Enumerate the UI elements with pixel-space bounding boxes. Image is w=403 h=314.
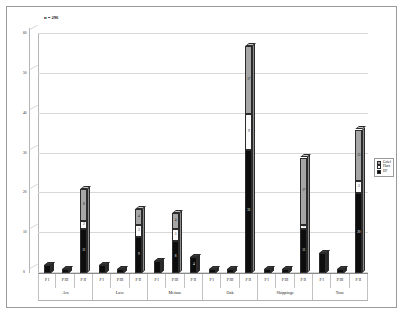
bar-segment-ef xyxy=(99,265,106,273)
bar-value-label: 1 xyxy=(301,226,306,229)
category-tick-label: P III xyxy=(111,274,129,288)
bar-side-face xyxy=(362,127,365,273)
bar-value-label: 17 xyxy=(246,78,251,81)
category-tick-label: P I xyxy=(203,274,221,288)
sample-size-annotation: n = 296 xyxy=(44,16,58,21)
bar-value-label: 3 xyxy=(136,229,141,232)
bar-side-face xyxy=(142,207,145,273)
y-axis-tick-label: 60 xyxy=(23,32,31,36)
category-tick-label: P III xyxy=(331,274,349,288)
category-tick-label: P I xyxy=(38,274,56,288)
bar-value-label: 9 xyxy=(136,253,141,256)
bar-value-label: 31 xyxy=(246,210,251,213)
bar-column: 934 xyxy=(135,209,142,273)
bar-side-face xyxy=(87,187,90,273)
group-axis-underline xyxy=(38,300,368,301)
bar-side-face xyxy=(69,266,72,273)
bar-value-label: 4 xyxy=(173,220,178,223)
bar-segment-ef xyxy=(154,261,161,273)
bar-side-face xyxy=(289,266,292,273)
group-axis-label: Oak xyxy=(203,287,258,300)
bar-segment-ef: 8 xyxy=(172,241,179,273)
chart-legend: GriefHurtEF xyxy=(374,158,394,177)
y-axis-tick-label: 0 xyxy=(23,271,29,275)
category-tick-label: P III xyxy=(166,274,184,288)
bar-value-label: 4 xyxy=(191,263,196,266)
bar-value-label: 13 xyxy=(356,154,361,157)
chart-container: n = 296 0102030405060 112893483443191711… xyxy=(0,0,403,314)
bar-column xyxy=(319,253,326,273)
bar-value-label: 3 xyxy=(356,186,361,189)
plot-area: 0102030405060 11289348344319171111720313 xyxy=(38,34,368,273)
bar-column: 20313 xyxy=(355,130,362,273)
bar-column: 1128 xyxy=(80,189,87,273)
legend-label: EF xyxy=(383,170,387,174)
group-axis-label: Ars xyxy=(38,287,93,300)
bar-column xyxy=(154,261,161,273)
category-tick-label: P II xyxy=(75,274,93,288)
bar-side-face xyxy=(216,266,219,273)
category-tick-label: P I xyxy=(313,274,331,288)
bar-side-face xyxy=(161,258,164,273)
bar-side-face xyxy=(179,211,182,273)
bar-column: 4 xyxy=(190,257,197,273)
bar-side-face xyxy=(234,266,237,273)
bar-side-face xyxy=(271,266,274,273)
legend-swatch-ef xyxy=(377,170,381,174)
bar-segment-ef xyxy=(44,265,51,273)
bar-value-label: 2 xyxy=(81,224,86,227)
bar-column: 11117 xyxy=(300,157,307,273)
y-axis-tick-label: 20 xyxy=(23,192,31,196)
legend-swatch-hurt xyxy=(377,165,381,169)
category-tick-label: P III xyxy=(56,274,74,288)
group-axis-label: Tone xyxy=(313,287,368,300)
category-tick-label: P I xyxy=(258,274,276,288)
category-tick-label: P II xyxy=(130,274,148,288)
bar-value-label: 9 xyxy=(246,130,251,133)
bar-segment-ef xyxy=(319,253,326,273)
bar-side-face xyxy=(252,43,255,273)
category-tick-label: P II xyxy=(185,274,203,288)
bar-value-label: 3 xyxy=(173,233,178,236)
bar-side-face xyxy=(307,155,310,273)
group-axis-label: Mefane xyxy=(148,287,203,300)
bar-value-label: 8 xyxy=(173,255,178,258)
y-axis-tick-label: 30 xyxy=(23,152,31,156)
bar-value-label: 4 xyxy=(136,216,141,219)
category-tick-label: P II xyxy=(240,274,258,288)
bar-value-label: 20 xyxy=(356,231,361,234)
legend-item[interactable]: EF xyxy=(377,170,391,174)
bar-side-face xyxy=(197,254,200,273)
group-axis: ArsLaveMefaneOakSkippingsTone xyxy=(38,287,368,300)
group-axis-label: Skippings xyxy=(258,287,313,300)
y-axis-tick-label: 10 xyxy=(23,231,31,235)
group-axis-label: Lave xyxy=(93,287,148,300)
bar-segment-grief: 4 xyxy=(172,213,179,229)
y-axis-tick-label: 40 xyxy=(23,112,31,116)
bars-layer: 11289348344319171111720313 xyxy=(38,34,368,273)
bar-side-face xyxy=(326,250,329,273)
bar-value-label: 11 xyxy=(301,249,306,252)
category-tick-label: P III xyxy=(276,274,294,288)
bar-value-label: 11 xyxy=(81,249,86,252)
bar-value-label: 17 xyxy=(301,190,306,193)
category-axis: P IP IIIP IIP IP IIIP IIP IP IIIP IIP IP… xyxy=(38,273,368,288)
category-tick-label: P II xyxy=(350,274,368,288)
bar-column: 834 xyxy=(172,213,179,273)
bar-side-face xyxy=(51,262,54,273)
bar-column xyxy=(99,265,106,273)
bar-column xyxy=(44,265,51,273)
bar-side-face xyxy=(344,266,347,273)
category-tick-label: P II xyxy=(295,274,313,288)
y-axis-tick-label: 50 xyxy=(23,72,31,76)
bar-value-label: 8 xyxy=(81,204,86,207)
category-tick-label: P I xyxy=(148,274,166,288)
legend-swatch-grief xyxy=(377,161,381,165)
bar-column: 31917 xyxy=(245,46,252,273)
bar-segment-hurt: 3 xyxy=(172,229,179,241)
category-tick-label: P III xyxy=(221,274,239,288)
bar-side-face xyxy=(124,266,127,273)
y-axis-line xyxy=(29,28,30,273)
category-tick-label: P I xyxy=(93,274,111,288)
bar-side-face xyxy=(106,262,109,273)
